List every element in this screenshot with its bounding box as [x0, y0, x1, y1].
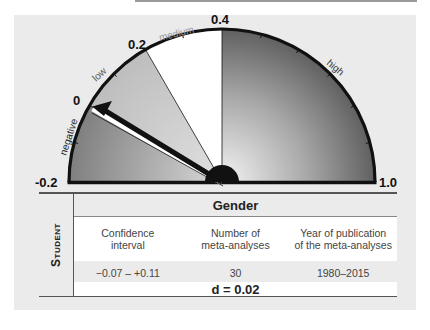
zone-high [222, 29, 375, 182]
tick-label-0: 0 [73, 93, 80, 108]
col-number-of-meta-analyses: Number ofmeta-analyses [182, 217, 290, 261]
col-confidence-interval: Confidenceinterval [74, 217, 182, 261]
tick-label-neg02: -0.2 [35, 175, 57, 190]
tick-label-02: 0.2 [128, 37, 146, 52]
effect-size: d = 0.02 [74, 282, 397, 296]
tick-label-04: 0.4 [211, 12, 230, 27]
effect-size-gauge: -0.2 0 0.2 0.4 1.0 negative low medium h… [0, 0, 430, 200]
column-headers: Confidenceinterval Number ofmeta-analyse… [74, 217, 397, 261]
table-title: Gender [74, 194, 397, 217]
results-table: Student Gender Confidenceinterval Number… [39, 192, 397, 317]
col-year-of-publication: Year of publicationof the meta-analyses [289, 217, 397, 261]
row-label: Student [39, 194, 73, 296]
table-bottom-rule [39, 296, 397, 297]
tick-label-10: 1.0 [379, 175, 397, 190]
